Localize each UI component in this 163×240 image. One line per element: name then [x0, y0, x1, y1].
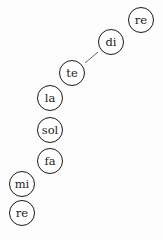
node-fa: fa: [37, 148, 63, 174]
note-diagram: re di te la sol fa mi re: [0, 0, 163, 240]
node-label: re: [16, 206, 28, 220]
edge-di-te: [85, 52, 98, 63]
node-label: sol: [42, 123, 59, 137]
node-te: te: [59, 60, 85, 86]
node-label: fa: [44, 154, 55, 168]
node-sol: sol: [37, 117, 63, 143]
node-label: re: [135, 13, 147, 27]
node-label: mi: [15, 177, 30, 191]
node-re-bottom: re: [9, 200, 35, 226]
node-la: la: [37, 85, 63, 111]
node-di: di: [98, 29, 124, 55]
node-re-top: re: [128, 7, 154, 33]
node-label: di: [105, 35, 116, 49]
node-label: la: [45, 91, 56, 105]
node-mi: mi: [9, 171, 35, 197]
node-label: te: [66, 66, 77, 80]
